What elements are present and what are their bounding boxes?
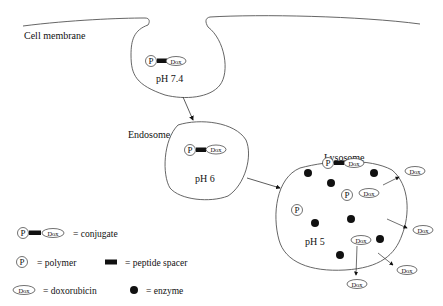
release-arrow	[378, 253, 393, 265]
release-arrow	[387, 219, 407, 228]
enzyme-icon	[327, 179, 335, 187]
svg-text:P: P	[20, 228, 25, 238]
legend: P Dox = conjugate P = polymer = peptide …	[13, 228, 188, 296]
svg-text:= doxorubicin: = doxorubicin	[43, 286, 97, 296]
svg-text:P: P	[325, 158, 330, 168]
svg-text:P: P	[344, 190, 349, 200]
svg-text:Dox: Dox	[170, 58, 182, 65]
lysosome-ph: pH 5	[305, 236, 325, 247]
vesicle-ph: pH 7.4	[156, 73, 183, 84]
release-arrow	[356, 246, 357, 275]
enzyme-icon	[304, 169, 312, 177]
svg-text:Dox: Dox	[417, 227, 429, 234]
legend-polymer: P = polymer	[17, 257, 78, 268]
legend-conjugate: P Dox = conjugate	[18, 228, 118, 239]
free-dox: Dox	[351, 236, 371, 245]
svg-text:Dox: Dox	[348, 160, 360, 167]
enzyme-icon	[336, 251, 344, 259]
svg-text:Dox: Dox	[363, 190, 375, 197]
svg-text:Dox: Dox	[355, 237, 367, 244]
free-polymer: P	[342, 190, 353, 201]
legend-doxorubicin: Dox = doxorubicin	[13, 286, 97, 296]
legend-peptide-spacer: = peptide spacer	[105, 258, 188, 268]
peptide-spacer-icon	[196, 148, 206, 153]
svg-text:Dox: Dox	[401, 267, 413, 274]
svg-text:P: P	[148, 56, 153, 66]
svg-text:Dox: Dox	[409, 168, 421, 175]
arrow-to-lysosome	[247, 178, 280, 188]
svg-text:P: P	[19, 257, 24, 267]
drug-release-diagram: Cell membrane P Dox pH 7.4 Endosome P Do…	[0, 0, 443, 306]
peptide-spacer-icon	[105, 260, 117, 265]
svg-text:Dox: Dox	[351, 281, 363, 288]
enzyme-icon	[130, 286, 138, 294]
peptide-spacer-icon	[29, 231, 41, 236]
svg-text:= conjugate: = conjugate	[73, 229, 118, 239]
svg-text:Dox: Dox	[210, 146, 222, 153]
conjugate-endosome: P Dox	[185, 145, 227, 156]
svg-text:= enzyme: = enzyme	[146, 286, 183, 296]
legend-enzyme: = enzyme	[130, 286, 183, 296]
free-polymer: P	[292, 205, 303, 216]
svg-text:= polymer: = polymer	[37, 258, 77, 268]
cell-membrane-label: Cell membrane	[24, 30, 86, 41]
free-dox: Dox	[359, 189, 379, 198]
cell-membrane	[23, 16, 420, 98]
enzyme-icon	[376, 235, 384, 243]
released-dox: Dox	[405, 167, 425, 176]
endosome-label: Endosome	[128, 129, 171, 140]
endosome	[165, 122, 248, 200]
enzyme-icon	[370, 169, 378, 177]
conjugate-vesicle: P Dox	[146, 56, 187, 67]
endosome-ph: pH 6	[195, 173, 215, 184]
peptide-spacer-icon	[334, 161, 344, 166]
released-dox: Dox	[347, 280, 367, 289]
release-arrow	[383, 177, 399, 185]
arrow-to-endosome	[183, 97, 193, 120]
svg-text:P: P	[294, 205, 299, 215]
enzyme-icon	[347, 215, 355, 223]
svg-text:= peptide spacer: = peptide spacer	[125, 258, 188, 268]
peptide-spacer-icon	[157, 59, 167, 64]
svg-text:P: P	[187, 145, 192, 155]
svg-text:Dox: Dox	[18, 287, 30, 294]
enzyme-icon	[311, 219, 319, 227]
svg-text:Dox: Dox	[47, 230, 59, 237]
released-dox: Dox	[397, 266, 417, 275]
released-dox: Dox	[413, 226, 433, 235]
